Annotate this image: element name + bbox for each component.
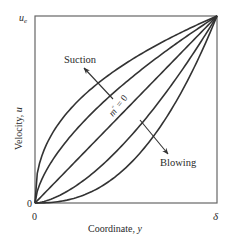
blowing-label: Blowing bbox=[160, 157, 197, 168]
velocity-profile-diagram: Suction Blowing m″ = 0 ue 0 0 δ Coordina… bbox=[0, 0, 229, 236]
velocity-curves bbox=[35, 16, 217, 203]
velocity-curve-3 bbox=[35, 16, 217, 203]
x-axis-origin-tick: 0 bbox=[32, 211, 37, 222]
x-axis-title: Coordinate, y bbox=[88, 223, 142, 234]
y-axis-title: Velocity, u bbox=[13, 107, 24, 150]
suction-arrow bbox=[84, 68, 113, 99]
y-axis-origin-tick: 0 bbox=[27, 198, 32, 209]
x-axis-end-tick: δ bbox=[213, 210, 219, 222]
suction-label: Suction bbox=[64, 54, 97, 65]
y-axis-top-tick: ue bbox=[19, 12, 27, 25]
